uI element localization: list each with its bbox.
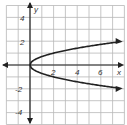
graph: y x 2 4 6 4 2 -2 -4 — [0, 0, 127, 125]
y-axis-down-arrow-icon — [27, 118, 33, 124]
y-axis-up-arrow-icon — [27, 2, 33, 8]
upper-branch-curve — [30, 42, 116, 65]
y-tick-2: 2 — [19, 38, 25, 47]
x-axis-label: x — [116, 68, 122, 77]
x-tick-6: 6 — [98, 68, 103, 77]
y-tick-4: 4 — [20, 14, 25, 23]
lower-branch-curve — [30, 65, 116, 88]
y-tick-neg2: -2 — [15, 85, 23, 94]
x-tick-4: 4 — [75, 68, 80, 77]
x-tick-2: 2 — [50, 68, 56, 77]
x-axis-left-arrow-icon — [2, 62, 8, 68]
y-axis-label: y — [33, 5, 39, 14]
y-tick-neg4: -4 — [15, 108, 23, 117]
